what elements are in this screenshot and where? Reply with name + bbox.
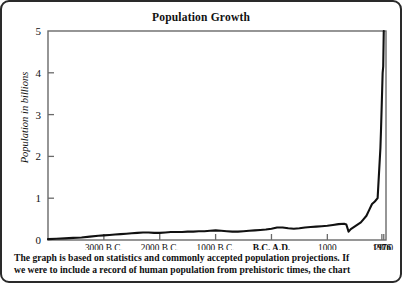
x-tick-label: 3000 B.C. <box>85 243 123 250</box>
y-tick-label: 5 <box>36 25 42 37</box>
y-tick-label: 1 <box>36 192 42 204</box>
x-tick-label: 2000 <box>374 243 393 250</box>
x-tick-label: 1000 B.C. <box>197 243 235 250</box>
x-tick-label: 1000 <box>318 243 337 250</box>
plot-frame <box>48 31 386 240</box>
y-tick-label: 4 <box>36 67 42 79</box>
y-tick-label: 0 <box>36 234 42 246</box>
chart-figure: Population Growth Population in billions… <box>0 0 402 250</box>
y-tick-label: 2 <box>36 150 42 162</box>
caption-line-1: The graph is based on statistics and com… <box>14 252 390 264</box>
x-tick-label: B.C. A.D. <box>253 243 290 250</box>
plot-area-border <box>48 31 386 240</box>
x-tick-label: 2000 B.C. <box>141 243 179 250</box>
figure-page: Population Growth Population in billions… <box>0 0 402 283</box>
caption-line-2: we were to include a record of human pop… <box>14 264 390 276</box>
figure-caption: The graph is based on statistics and com… <box>14 252 390 275</box>
population-growth-line-chart: 012345 3000 B.C.2000 B.C.1000 B.C.B.C. A… <box>0 0 402 250</box>
y-tick-label: 3 <box>36 109 42 121</box>
